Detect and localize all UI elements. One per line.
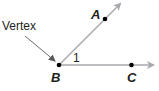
- vertex-pointer-arrow: [25, 36, 55, 61]
- point-c-dot: [129, 63, 134, 68]
- ray-ba: [59, 4, 120, 65]
- point-b-label: B: [51, 71, 60, 84]
- point-b-dot: [57, 63, 62, 68]
- vertex-label: Vertex: [2, 20, 36, 32]
- point-a-label: A: [91, 8, 100, 21]
- point-a-dot: [103, 17, 108, 22]
- angle-1-label: 1: [73, 52, 80, 64]
- angle-diagram: Vertex A B C 1: [0, 0, 159, 91]
- point-c-label: C: [127, 71, 136, 84]
